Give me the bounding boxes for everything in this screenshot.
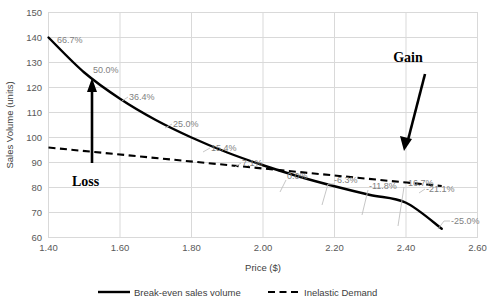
y-tick: 80 (31, 182, 42, 193)
x-tick: 1.80 (182, 242, 201, 253)
x-tick: 2.40 (397, 242, 416, 253)
point-label: -6.3% (334, 175, 358, 185)
y-axis-tick-labels: 150 140 130 120 110 100 90 80 70 60 (26, 7, 42, 243)
y-tick: 100 (26, 132, 42, 143)
chart-legend: Break-even sales volume Inelastic Demand (98, 287, 377, 298)
y-tick: 140 (26, 32, 42, 43)
x-axis-tick-labels: 1.40 1.60 1.80 2.00 2.20 2.40 2.60 (39, 242, 487, 253)
point-label: 7.1% (242, 158, 263, 168)
legend-item-break-even[interactable]: Break-even sales volume (98, 287, 241, 298)
x-axis-title: Price ($) (245, 262, 281, 273)
y-axis-title: Sales Volume (units) (4, 81, 15, 168)
x-tick: 1.40 (39, 242, 58, 253)
x-tick: 2.60 (468, 242, 487, 253)
point-label: -25.0% (451, 216, 480, 226)
legend-item-inelastic-demand[interactable]: Inelastic Demand (268, 287, 377, 298)
loss-label: Loss (72, 174, 100, 189)
x-tick: 1.60 (111, 242, 130, 253)
y-tick: 120 (26, 82, 42, 93)
gain-label: Gain (393, 50, 423, 65)
y-tick: 130 (26, 57, 42, 68)
x-tick: 2.20 (325, 242, 344, 253)
x-tick: 2.00 (254, 242, 273, 253)
gain-annotation: Gain (393, 50, 425, 151)
chart-container: 150 140 130 120 110 100 90 80 70 60 1.40… (0, 0, 495, 307)
point-label: 15.4% (211, 143, 237, 153)
y-tick: 90 (31, 157, 42, 168)
legend-label: Break-even sales volume (134, 287, 241, 298)
point-label: -21.1% (426, 184, 455, 194)
point-label: 50.0% (93, 65, 119, 75)
loss-annotation: Loss (72, 78, 100, 189)
y-tick: 150 (26, 7, 42, 18)
point-label: 66.7% (57, 35, 83, 45)
y-tick: 110 (27, 107, 42, 118)
point-label: -11.8% (369, 181, 397, 191)
point-label: 0.0% (287, 171, 308, 181)
y-tick: 70 (31, 207, 42, 218)
legend-label: Inelastic Demand (304, 287, 377, 298)
point-label: 36.4% (129, 92, 155, 102)
point-label: 25.0% (173, 119, 199, 129)
